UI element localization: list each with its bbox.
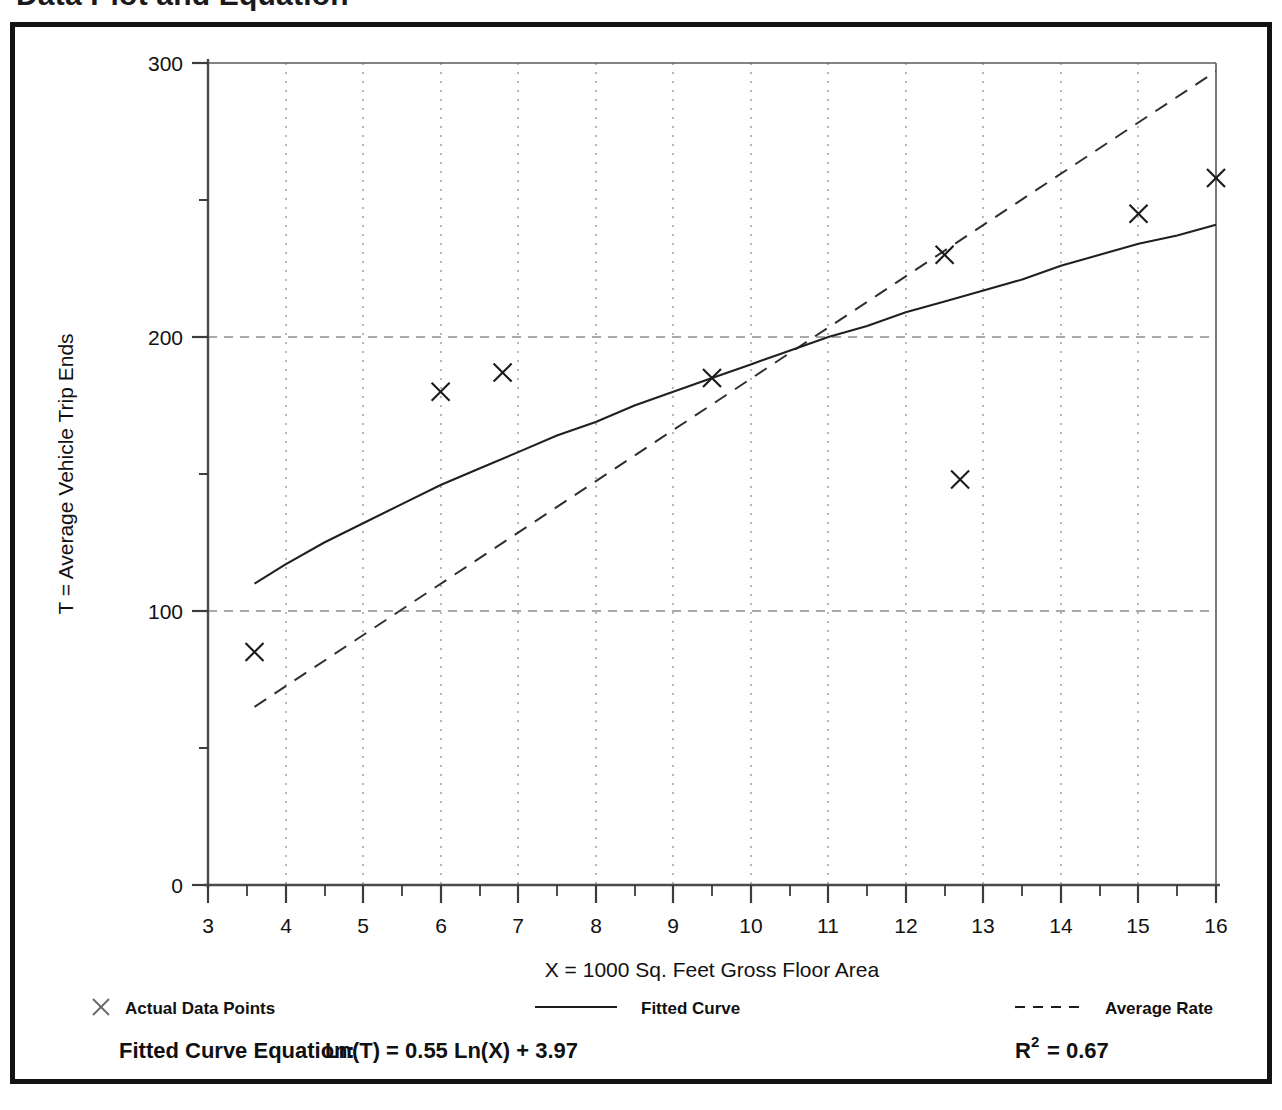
r-squared-equals-value: = 0.67 (1047, 1038, 1109, 1063)
x-tick-label-10: 10 (739, 914, 762, 937)
x-axis-title: X = 1000 Sq. Feet Gross Floor Area (545, 958, 880, 981)
x-tick-label-16: 16 (1204, 914, 1227, 937)
figure-frame: 300 200 100 0 T = Average Vehicle Trip E… (10, 22, 1272, 1084)
grid-vertical (286, 63, 1138, 885)
y-tick-label-100: 100 (148, 600, 183, 623)
legend-label-actual-data-points: Actual Data Points (125, 999, 275, 1018)
data-point-marker (703, 369, 721, 387)
y-tick-label-200: 200 (148, 326, 183, 349)
chart-legend: Actual Data Points Fitted Curve Average … (93, 999, 1213, 1018)
r-squared-symbol: R (1015, 1038, 1031, 1063)
figure-page: Data Plot and Equation (0, 0, 1282, 1110)
r-squared-exponent: 2 (1031, 1033, 1039, 1050)
chart-canvas: 300 200 100 0 T = Average Vehicle Trip E… (15, 27, 1267, 1079)
y-tick-label-0: 0 (171, 874, 183, 897)
x-tick-label-13: 13 (971, 914, 994, 937)
x-tick-label-14: 14 (1049, 914, 1073, 937)
legend-label-average-rate: Average Rate (1105, 999, 1213, 1018)
legend-marker-x-icon (93, 999, 109, 1015)
series-actual-data-points (246, 169, 1226, 661)
page-title: Data Plot and Equation (16, 0, 349, 12)
chart-svg: 300 200 100 0 T = Average Vehicle Trip E… (15, 27, 1267, 1079)
y-axis-title: T = Average Vehicle Trip Ends (54, 333, 77, 614)
series-average-rate (255, 71, 1217, 707)
x-tick-label-15: 15 (1126, 914, 1149, 937)
x-tick-label-5: 5 (357, 914, 369, 937)
data-point-marker (432, 383, 450, 401)
x-tick-label-4: 4 (280, 914, 292, 937)
legend-label-fitted-curve: Fitted Curve (641, 999, 740, 1018)
x-tick-label-11: 11 (817, 914, 839, 937)
data-point-marker (494, 364, 512, 382)
x-tick-label-3: 3 (202, 914, 214, 937)
x-axis-minor-ticks (247, 885, 1177, 896)
r-squared-value: R 2 = 0.67 (1015, 1033, 1109, 1063)
fitted-curve-equation-label: Fitted Curve Equation: (119, 1038, 355, 1063)
x-tick-label-12: 12 (894, 914, 917, 937)
x-tick-label-7: 7 (512, 914, 524, 937)
series-fitted-curve (255, 225, 1217, 584)
x-tick-labels: 3 4 5 6 7 8 9 10 11 12 13 14 15 16 (202, 914, 1228, 937)
data-point-marker (246, 643, 264, 661)
fitted-curve-equation-value: Ln(T) = 0.55 Ln(X) + 3.97 (325, 1038, 578, 1063)
x-tick-label-8: 8 (590, 914, 602, 937)
y-tick-label-300: 300 (148, 52, 183, 75)
plot-box (208, 63, 1216, 885)
x-tick-label-9: 9 (667, 914, 679, 937)
y-axis-minor-ticks (199, 200, 208, 748)
data-point-marker (951, 471, 969, 489)
x-tick-label-6: 6 (435, 914, 447, 937)
